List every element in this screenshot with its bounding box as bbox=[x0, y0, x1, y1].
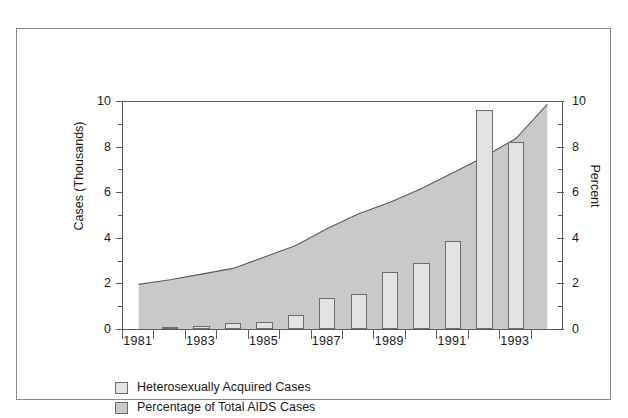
x-axis-label-1989: 1989 bbox=[359, 335, 419, 348]
x-axis-label-1985: 1985 bbox=[233, 335, 293, 348]
y-axis-left-label-0: 0 bbox=[85, 323, 111, 336]
bar-1983 bbox=[193, 326, 209, 329]
bar-1988 bbox=[351, 294, 367, 329]
bar-1993 bbox=[508, 142, 524, 329]
y-axis-left-label-2: 2 bbox=[85, 277, 111, 290]
x-axis-label-1983: 1983 bbox=[171, 335, 231, 348]
x-axis-label-1981: 1981 bbox=[108, 335, 168, 348]
tick-right-3 bbox=[558, 261, 563, 262]
tick-left-3 bbox=[118, 261, 123, 262]
tick-right-4 bbox=[557, 238, 564, 239]
y-axis-right-label-6: 6 bbox=[572, 186, 598, 199]
tick-left-10 bbox=[116, 101, 123, 102]
plot-area bbox=[123, 102, 562, 329]
x-axis-label-1987: 1987 bbox=[296, 335, 356, 348]
legend-swatch-heterosexual-cases bbox=[115, 382, 128, 394]
bar-1991 bbox=[445, 241, 461, 329]
legend-item: Heterosexually Acquired Cases bbox=[115, 379, 315, 396]
tick-right-8 bbox=[557, 147, 564, 148]
tick-left-5 bbox=[118, 215, 123, 216]
y-axis-right-label-10: 10 bbox=[572, 95, 598, 108]
tick-left-9 bbox=[118, 124, 123, 125]
tick-left-8 bbox=[116, 147, 123, 148]
bar-1984 bbox=[225, 323, 241, 329]
bar-1992 bbox=[476, 110, 492, 329]
y-axis-right-label-8: 8 bbox=[572, 141, 598, 154]
x-axis-label-1991: 1991 bbox=[422, 335, 482, 348]
x-axis-label-1993: 1993 bbox=[485, 335, 545, 348]
bar-1982 bbox=[162, 327, 178, 329]
bar-1990 bbox=[413, 263, 429, 329]
tick-left-4 bbox=[116, 238, 123, 239]
bar-1989 bbox=[382, 272, 398, 329]
tick-left-6 bbox=[116, 192, 123, 193]
chart-frame: Cases (Thousands) Percent 0246810 024681… bbox=[16, 28, 611, 400]
y-axis-right-label-2: 2 bbox=[572, 277, 598, 290]
y-axis-right-label-0: 0 bbox=[572, 323, 598, 336]
tick-right-9 bbox=[558, 124, 563, 125]
tick-right-10 bbox=[557, 101, 564, 102]
y-axis-right-label-4: 4 bbox=[572, 232, 598, 245]
tick-right-6 bbox=[557, 192, 564, 193]
legend-item: Percentage of Total AIDS Cases bbox=[115, 399, 315, 416]
tick-right-0 bbox=[557, 329, 564, 330]
bar-1985 bbox=[256, 322, 272, 329]
tick-right-7 bbox=[558, 169, 563, 170]
bar-1986 bbox=[288, 315, 304, 329]
area-series-percentage bbox=[123, 102, 562, 329]
tick-left-1 bbox=[118, 306, 123, 307]
tick-left-7 bbox=[118, 169, 123, 170]
y-axis-left-label-4: 4 bbox=[85, 232, 111, 245]
bar-1987 bbox=[319, 298, 335, 329]
tick-right-1 bbox=[558, 306, 563, 307]
chart-legend: Heterosexually Acquired Cases Percentage… bbox=[115, 379, 315, 418]
legend-label-percentage-total-aids: Percentage of Total AIDS Cases bbox=[137, 401, 315, 414]
y-axis-left-title: Cases (Thousands) bbox=[72, 106, 86, 246]
y-axis-left-label-10: 10 bbox=[85, 95, 111, 108]
legend-label-heterosexual-cases: Heterosexually Acquired Cases bbox=[137, 381, 311, 394]
tick-left-2 bbox=[116, 283, 123, 284]
legend-swatch-percentage-total-aids bbox=[115, 402, 128, 414]
y-axis-left-label-6: 6 bbox=[85, 186, 111, 199]
tick-right-2 bbox=[557, 283, 564, 284]
tick-right-5 bbox=[558, 215, 563, 216]
y-axis-left-label-8: 8 bbox=[85, 141, 111, 154]
